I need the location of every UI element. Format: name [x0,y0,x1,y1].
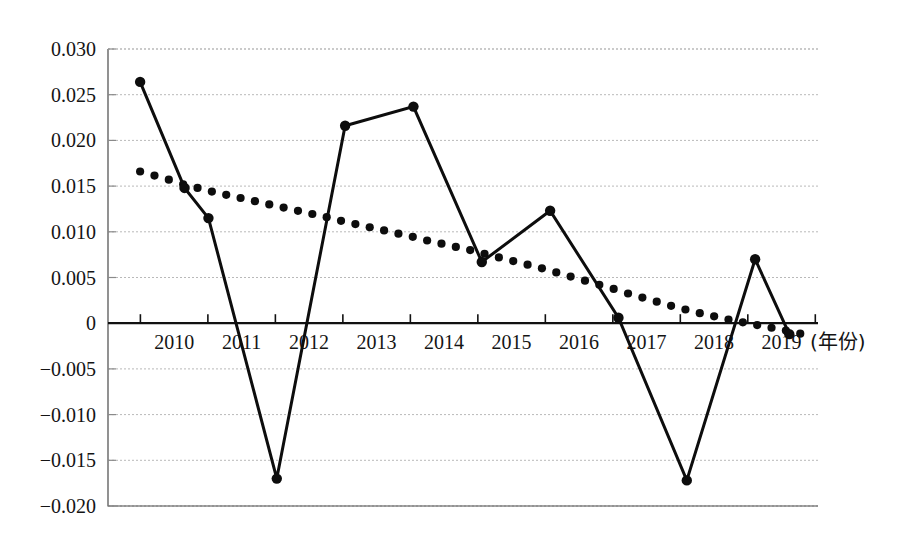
dotted-series-marker [696,309,704,317]
solid-series-path [140,82,789,481]
y-axis-tick-labels: 0.0300.0250.0200.0150.0100.0050−0.005−0.… [40,38,96,517]
dotted-series-marker [308,210,316,218]
dotted-series-marker [538,264,546,272]
dotted-series-marker [394,230,402,238]
x-tick-label: 2015 [492,331,532,353]
dotted-series-marker [653,298,661,306]
y-tick-label: 0.010 [51,221,96,243]
dotted-series-marker [251,197,259,205]
y-tick-label: 0.005 [51,267,96,289]
solid-series-marker [272,473,282,483]
dotted-trend-series [136,167,804,337]
dotted-series-marker [466,246,474,254]
y-tick-label: −0.005 [40,358,96,380]
chart-container: 0.0300.0250.0200.0150.0100.0050−0.005−0.… [0,0,908,552]
solid-series-marker [179,183,189,193]
dotted-series-marker [681,305,689,313]
line-chart: 0.0300.0250.0200.0150.0100.0050−0.005−0.… [0,0,908,552]
x-tick-label: 2013 [357,331,397,353]
dotted-series-marker [610,285,618,293]
dotted-series-marker [452,243,460,251]
plot-frame [108,49,818,506]
dotted-series-marker [222,191,230,199]
dotted-series-marker [753,321,761,329]
dotted-series-marker [710,312,718,320]
dotted-series-marker [437,240,445,248]
y-tick-label: −0.020 [40,495,96,517]
solid-series-marker [135,77,145,87]
dotted-series-marker [236,194,244,202]
dotted-series-marker [380,226,388,234]
x-tick-label: 2016 [559,331,599,353]
dotted-series-marker [552,268,560,276]
dotted-series-marker [409,233,417,241]
dotted-series-marker [767,324,775,332]
y-tick-label: 0.025 [51,84,96,106]
dotted-series-marker [193,184,201,192]
solid-series-marker [408,101,418,111]
x-axis-caption: (年份) [810,330,866,354]
dotted-series-marker [523,261,531,269]
dotted-series-marker [638,294,646,302]
y-tick-label: 0 [86,312,96,334]
dotted-series-marker [509,257,517,265]
dotted-series-marker [294,207,302,215]
x-tick-label: 2014 [424,331,464,353]
dotted-series-marker [208,187,216,195]
frame-border [108,49,818,506]
solid-series-marker [613,313,623,323]
solid-series-marker [545,206,555,216]
y-axis-ticks [108,49,116,506]
dotted-series-marker [265,200,273,208]
x-axis-caption-text: (年份) [810,330,866,354]
dotted-series-marker [796,330,804,338]
solid-series-marker [340,121,350,131]
solid-series-marker [203,213,213,223]
dotted-series-marker [667,302,675,310]
dotted-series-marker [366,223,374,231]
dotted-series-marker [351,220,359,228]
dotted-series-marker [280,203,288,211]
x-tick-label: 2012 [289,331,329,353]
dotted-series-marker [423,236,431,244]
x-tick-label: 2019 [762,331,802,353]
y-tick-label: 0.015 [51,175,96,197]
gridlines [108,49,818,506]
dotted-series-marker [739,318,747,326]
solid-series-marker [477,257,487,267]
dotted-series-marker [624,289,632,297]
solid-line-series [135,77,795,486]
y-tick-label: 0.020 [51,129,96,151]
dotted-series-marker [495,253,503,261]
solid-series-marker [682,475,692,485]
dotted-series-marker [567,272,575,280]
x-axis-tick-labels: 2010201120122013201420152016201720182019 [154,331,801,353]
dotted-series-marker [136,167,144,175]
dotted-series-marker [337,217,345,225]
solid-series-marker [784,329,794,339]
dotted-series-marker [581,277,589,285]
y-tick-label: −0.015 [40,449,96,471]
y-tick-label: 0.030 [51,38,96,60]
dotted-series-marker [150,171,158,179]
solid-series-marker [750,254,760,264]
dotted-series-marker [724,315,732,323]
x-tick-label: 2010 [154,331,194,353]
dotted-series-marker [165,176,173,184]
y-tick-label: −0.010 [40,404,96,426]
